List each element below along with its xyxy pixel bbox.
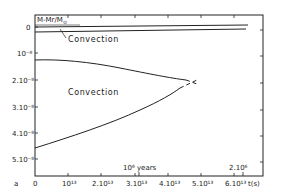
svg-text:4.10¹³: 4.10¹³: [159, 180, 180, 188]
y-axis-label: M-Mr/M⊙: [37, 16, 67, 25]
convection-label-middle: Convection: [68, 88, 119, 97]
x-ticks: [68, 172, 243, 176]
svg-text:0: 0: [33, 180, 37, 188]
outer-zone-bottom-line: [35, 29, 246, 32]
svg-text:6.10¹³: 6.10¹³: [225, 180, 246, 188]
panel-label: a: [14, 180, 18, 188]
svg-text:0: 0: [26, 24, 30, 32]
inner-zone-lower-curve: [35, 88, 180, 148]
years-label-2: 2.10⁶: [229, 164, 248, 172]
svg-text:2.10¹³: 2.10¹³: [92, 180, 113, 188]
svg-text:3.10¹³: 3.10¹³: [126, 180, 147, 188]
inner-zone-upper-curve: [35, 60, 186, 80]
svg-text:4.10⁻⁸: 4.10⁻⁸: [12, 130, 34, 138]
svg-text:10⁻⁸: 10⁻⁸: [17, 50, 33, 58]
x-axis-unit: t(s): [248, 180, 260, 188]
chart-figure: M-Mr/M⊙ Convection Convection 0 10⁻⁸ 2.1…: [0, 0, 281, 192]
years-label-1: 10⁶ years: [123, 164, 157, 172]
annotation-pointer: [60, 29, 66, 38]
convection-label-top: Convection: [68, 35, 119, 44]
svg-text:3.10⁻⁸: 3.10⁻⁸: [12, 104, 34, 112]
y-tick-labels: 0 10⁻⁸ 2.10⁻⁸ 3.10⁻⁸ 4.10⁻⁸ 5.10⁻⁸: [12, 24, 34, 164]
svg-text:2.10⁻⁸: 2.10⁻⁸: [12, 77, 34, 85]
x-tick-labels: 0 10¹³ 2.10¹³ 3.10¹³ 4.10¹³ 5.10¹³ 6.10¹…: [33, 180, 246, 188]
svg-text:10¹³: 10¹³: [62, 180, 77, 188]
svg-text:5.10¹³: 5.10¹³: [192, 180, 213, 188]
svg-text:5.10⁻⁸: 5.10⁻⁸: [12, 156, 34, 164]
